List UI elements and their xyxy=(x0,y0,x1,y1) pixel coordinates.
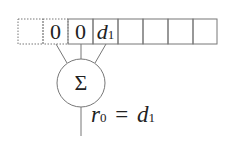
cell-1-value: 0 xyxy=(43,19,68,44)
cell-3-value: d1 xyxy=(93,19,118,47)
cell-0-border xyxy=(18,19,43,44)
sum-symbol: Σ xyxy=(57,70,105,96)
output-equation: r0 = d1 xyxy=(91,101,155,132)
cell-6-border xyxy=(168,19,193,44)
cell-2-value: 0 xyxy=(68,19,93,44)
cell-5-border xyxy=(143,19,168,44)
input-line-1 xyxy=(56,44,67,63)
cell-4-border xyxy=(118,19,143,44)
cell-7-border xyxy=(193,19,217,44)
